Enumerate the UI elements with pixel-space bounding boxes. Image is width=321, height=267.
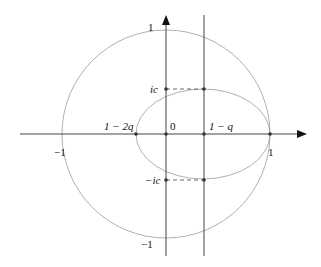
label-x-left: −1 <box>54 146 66 158</box>
label-1-minus-q: 1 − q <box>209 120 233 132</box>
label-y-top: 1 <box>148 21 154 33</box>
label-origin: 0 <box>170 120 176 132</box>
label-ic: ic <box>150 83 158 95</box>
label-x-right: 1 <box>268 146 274 158</box>
label-minus-ic: −ic <box>145 174 160 186</box>
x-axis-arrow-icon <box>297 130 307 138</box>
label-1-minus-2q: 1 − 2q <box>104 120 134 132</box>
label-y-bottom: −1 <box>141 238 153 250</box>
complex-plane-diagram: 1 −1 −1 1 0 1 − 2q 1 − q ic −ic <box>0 0 321 267</box>
y-axis-arrow-icon <box>162 15 170 25</box>
